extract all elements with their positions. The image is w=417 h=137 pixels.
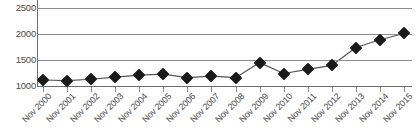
gridline bbox=[37, 8, 412, 9]
y-axis-tick-label: 1500 bbox=[2, 55, 36, 65]
y-axis: 2500200015001000 bbox=[0, 0, 36, 95]
gridline bbox=[37, 60, 412, 61]
line-chart: 2500200015001000 Nov 2000Nov 2001Nov 200… bbox=[0, 0, 417, 137]
gridline bbox=[37, 34, 412, 35]
x-axis: Nov 2000Nov 2001Nov 2002Nov 2003Nov 2004… bbox=[37, 92, 412, 137]
y-axis-tick-label: 2500 bbox=[2, 3, 36, 13]
y-axis-tick-label: 1000 bbox=[2, 81, 36, 91]
y-axis-tick-label: 2000 bbox=[2, 29, 36, 39]
